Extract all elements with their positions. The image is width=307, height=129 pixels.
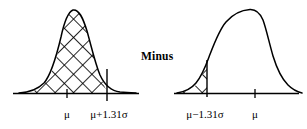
right-distribution-panel: [174, 9, 302, 98]
left-distribution-panel: [13, 0, 139, 101]
normal-distribution-subtraction-figure: Minus μ μ+1.31σ μ−1.31σ μ: [0, 0, 307, 129]
left-cutoff-label: μ+1.31σ: [90, 108, 127, 120]
right-normal-curve: [177, 9, 302, 93]
left-mu-label: μ: [64, 108, 70, 120]
right-cutoff-label: μ−1.31σ: [186, 108, 223, 120]
right-mu-label: μ: [252, 108, 258, 120]
left-shaded-area: [18, 0, 114, 96]
distribution-diagram-canvas: [0, 0, 307, 129]
minus-operator-label: Minus: [141, 50, 173, 62]
